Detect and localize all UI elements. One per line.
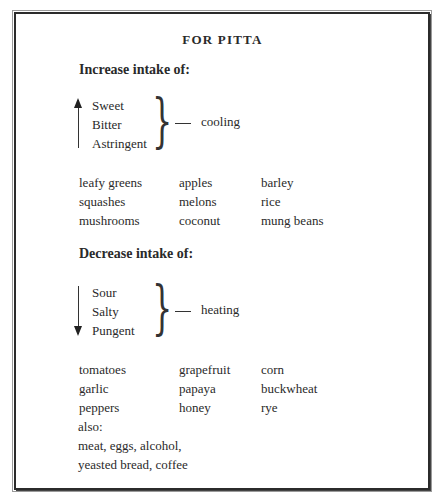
taste-item: Sweet: [92, 96, 147, 115]
food-item: barley: [261, 173, 371, 192]
effect-label: heating: [201, 302, 239, 317]
food-item: rice: [261, 192, 371, 211]
effect-label: cooling: [201, 114, 240, 129]
food-item: apples: [179, 173, 261, 192]
food-item: corn: [261, 360, 371, 379]
food-item: tomatoes: [79, 360, 179, 379]
food-item: garlic: [79, 379, 179, 398]
food-row: leafy greensapplesbarley: [79, 173, 371, 192]
food-row: peppershoneyrye: [79, 398, 371, 417]
food-item: rye: [261, 398, 371, 417]
arrow-up-icon: [78, 100, 79, 148]
dash-icon: [175, 123, 191, 124]
also-list: also: meat, eggs, alcohol, yeasted bread…: [78, 417, 188, 474]
brace-icon: }: [152, 92, 172, 150]
dash-icon: [175, 311, 191, 312]
food-item: leafy greens: [79, 173, 179, 192]
taste-item: Salty: [92, 302, 135, 321]
arrow-down-icon: [78, 286, 79, 334]
increase-foods: leafy greensapplesbarley squashesmelonsr…: [79, 173, 371, 230]
taste-item: Sour: [92, 283, 135, 302]
food-item: mung beans: [261, 211, 371, 230]
food-row: squashesmelonsrice: [79, 192, 371, 211]
food-item: papaya: [179, 379, 261, 398]
food-item: peppers: [79, 398, 179, 417]
decrease-tastes: Sour Salty Pungent: [92, 283, 135, 340]
also-line: yeasted bread, coffee: [78, 455, 188, 474]
food-row: tomatoesgrapefruitcorn: [79, 360, 371, 379]
food-item: mushrooms: [79, 211, 179, 230]
brace-icon: }: [152, 279, 172, 337]
increase-heading: Increase intake of:: [79, 62, 190, 78]
food-row: mushroomscoconutmung beans: [79, 211, 371, 230]
increase-tastes: Sweet Bitter Astringent: [92, 96, 147, 153]
decrease-heading: Decrease intake of:: [79, 246, 193, 262]
food-item: squashes: [79, 192, 179, 211]
increase-effect: cooling: [175, 114, 240, 130]
food-row: garlicpapayabuckwheat: [79, 379, 371, 398]
taste-item: Bitter: [92, 115, 147, 134]
page-title: FOR PITTA: [0, 32, 445, 48]
also-line: meat, eggs, alcohol,: [78, 436, 188, 455]
document-frame: [14, 12, 430, 490]
food-item: melons: [179, 192, 261, 211]
decrease-effect: heating: [175, 302, 239, 318]
food-item: buckwheat: [261, 379, 371, 398]
decrease-foods: tomatoesgrapefruitcorn garlicpapayabuckw…: [79, 360, 371, 417]
taste-item: Astringent: [92, 134, 147, 153]
taste-item: Pungent: [92, 321, 135, 340]
food-item: honey: [179, 398, 261, 417]
food-item: grapefruit: [179, 360, 261, 379]
food-item: coconut: [179, 211, 261, 230]
also-label: also:: [78, 417, 188, 436]
